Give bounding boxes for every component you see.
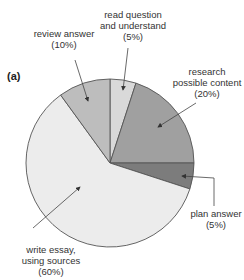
label-write: write essay, using sources (60%) (22, 244, 81, 277)
panel-label: (a) (7, 70, 20, 82)
label-research: research possible content (20%) (173, 66, 242, 99)
label-plan: plan answer (5%) (190, 208, 241, 230)
label-read: read question and understand (5%) (100, 9, 166, 42)
label-review: review answer (10%) (34, 28, 95, 50)
pie-slices (26, 79, 194, 247)
